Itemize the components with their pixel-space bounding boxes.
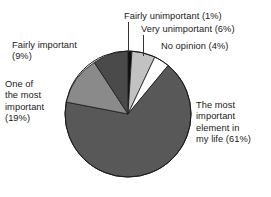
pie-label-very-unimportant: Very unimportant (6%) bbox=[141, 24, 265, 35]
pie-label-no-opinion: No opinion (4%) bbox=[161, 41, 265, 52]
pie-label-the-most-important-element-in-my-life: The most important element in my life (6… bbox=[196, 100, 270, 146]
pie-slices bbox=[65, 51, 191, 177]
pie-label-one-of-the-most-important: One of the most important (19%) bbox=[5, 79, 79, 125]
pie-label-fairly-important: Fairly important (9%) bbox=[12, 40, 106, 63]
pie-label-fairly-unimportant: Fairly unimportant (1%) bbox=[124, 11, 264, 22]
pie-chart-figure: Fairly unimportant (1%) Very unimportant… bbox=[0, 0, 271, 197]
